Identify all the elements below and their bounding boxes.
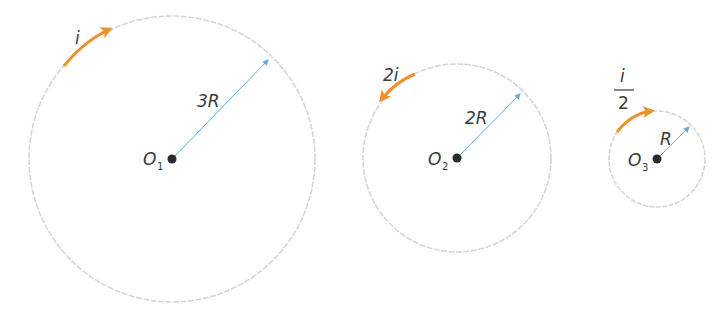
loop-2-center-dot bbox=[453, 154, 462, 163]
loop-2-current-label: 2i bbox=[383, 65, 399, 85]
loop-2-radius-label: 2R bbox=[465, 108, 488, 128]
loop-3-current-arrow bbox=[617, 111, 652, 132]
loop-1-center-subscript: 1 bbox=[157, 161, 163, 172]
loop-1-radius-line bbox=[172, 60, 268, 159]
loop-1-current-label: i bbox=[75, 28, 80, 48]
loop-1-radius-label: 3R bbox=[197, 91, 220, 111]
loop-1: O 1 3R i bbox=[29, 16, 315, 302]
loop-3-current-denominator: 2 bbox=[618, 93, 629, 113]
loop-1-center-label: O bbox=[143, 149, 156, 169]
loop-2-center-label: O bbox=[428, 149, 441, 169]
loop-3-current-numerator: i bbox=[620, 66, 625, 86]
loop-3-radius-label: R bbox=[660, 129, 672, 149]
loop-2: O 2 2R 2i bbox=[363, 64, 551, 252]
loop-3-center-subscript: 3 bbox=[642, 162, 648, 173]
loop-3: O 3 R i 2 bbox=[609, 66, 705, 207]
loop-3-center-label: O bbox=[628, 150, 641, 170]
loop-1-center-dot bbox=[168, 155, 177, 164]
current-loops-diagram: O 1 3R i O 2 2R 2i O 3 R i 2 bbox=[0, 0, 726, 309]
loop-2-center-subscript: 2 bbox=[442, 161, 448, 172]
loop-3-center-dot bbox=[653, 155, 662, 164]
